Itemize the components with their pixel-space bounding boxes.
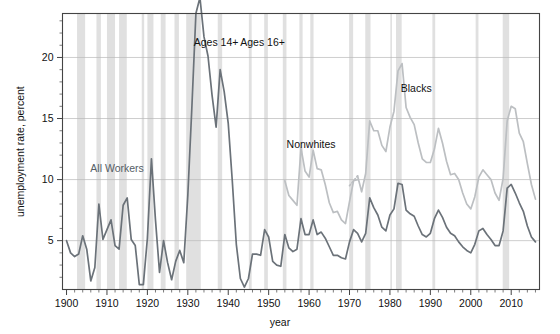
x-tick-label-1970: 1970 bbox=[338, 297, 362, 309]
annotation-ages-16-: Ages 16+ bbox=[240, 36, 285, 48]
x-tick-label-1960: 1960 bbox=[297, 297, 321, 309]
x-tick-label-1980: 1980 bbox=[378, 297, 402, 309]
annotation-ages-14-: Ages 14+ bbox=[194, 36, 239, 48]
x-tick-label-1910: 1910 bbox=[95, 297, 119, 309]
recession-band-18 bbox=[396, 14, 402, 290]
recession-band-4 bbox=[142, 14, 144, 290]
x-tick-label-1930: 1930 bbox=[176, 297, 200, 309]
y-axis-title: unemployment rate, percent bbox=[14, 86, 26, 217]
x-tick-label-2010: 2010 bbox=[500, 297, 524, 309]
x-tick-label-1940: 1940 bbox=[217, 297, 241, 309]
annotation-all-workers: All Workers bbox=[90, 162, 143, 174]
recession-band-9 bbox=[218, 14, 222, 290]
recession-band-15 bbox=[349, 14, 353, 290]
y-tick-label-5: 5 bbox=[48, 234, 54, 246]
recession-band-7 bbox=[174, 14, 178, 290]
unemployment-rate-chart: 1900191019201930194019501960197019801990… bbox=[0, 0, 560, 334]
x-tick-label-1950: 1950 bbox=[257, 297, 281, 309]
recession-band-20 bbox=[476, 14, 479, 290]
annotation-nonwhites: Nonwhites bbox=[287, 138, 336, 150]
x-axis-title: year bbox=[0, 316, 560, 328]
recession-band-21 bbox=[503, 14, 509, 290]
recession-band-11 bbox=[264, 14, 268, 290]
y-tick-label-20: 20 bbox=[42, 51, 54, 63]
recession-band-5 bbox=[147, 14, 153, 290]
x-tick-label-1990: 1990 bbox=[419, 297, 443, 309]
recession-band-3 bbox=[119, 14, 127, 290]
recession-band-2 bbox=[107, 14, 115, 290]
x-tick-label-1900: 1900 bbox=[55, 297, 79, 309]
recession-band-1 bbox=[96, 14, 100, 290]
annotation-blacks: Blacks bbox=[401, 82, 432, 94]
recession-band-17 bbox=[390, 14, 392, 290]
chart-canvas: 1900191019201930194019501960197019801990… bbox=[0, 0, 560, 334]
y-tick-label-10: 10 bbox=[42, 173, 54, 185]
recession-band-10 bbox=[249, 14, 252, 290]
y-tick-label-15: 15 bbox=[42, 112, 54, 124]
x-tick-label-1920: 1920 bbox=[136, 297, 160, 309]
recession-band-0 bbox=[77, 14, 85, 290]
x-tick-label-2000: 2000 bbox=[459, 297, 483, 309]
